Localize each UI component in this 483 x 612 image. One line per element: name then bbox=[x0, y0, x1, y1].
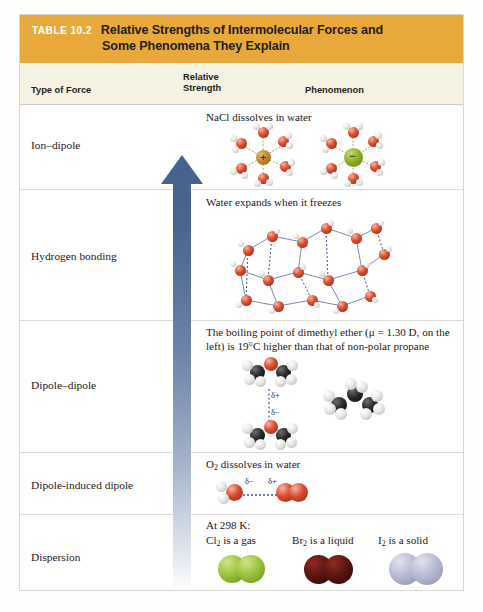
water-hydrogen bbox=[320, 135, 327, 142]
phenomenon-line-1: The boiling point of dimethyl ether (μ =… bbox=[206, 326, 433, 338]
phenomenon-formula-o: O bbox=[206, 458, 214, 470]
water-hydrogen bbox=[344, 180, 351, 187]
ether-hydrogen bbox=[242, 360, 253, 371]
banner-title-line-1: TABLE 10.2Relative Strengths of Intermol… bbox=[32, 23, 451, 39]
lattice-water-hydrogen bbox=[274, 228, 280, 234]
phenomenon-formula-rest: dissolves in water bbox=[218, 458, 300, 470]
lattice-water-hydrogen bbox=[314, 302, 320, 308]
table-number-badge: TABLE 10.2 bbox=[32, 25, 92, 36]
water-hydrogen bbox=[286, 169, 293, 176]
lattice-water-oxygen bbox=[323, 275, 334, 286]
lattice-water-hydrogen bbox=[238, 241, 244, 247]
art-iodine-molecule bbox=[389, 553, 447, 587]
lattice-water-hydrogen bbox=[259, 271, 265, 277]
lattice-water-oxygen bbox=[243, 245, 254, 256]
art-chlorine-molecule bbox=[218, 555, 272, 587]
propane-hydrogen bbox=[323, 390, 335, 402]
water-hydrogen bbox=[356, 123, 363, 130]
lattice-water-hydrogen bbox=[236, 302, 242, 308]
ether-hydrogen bbox=[286, 374, 297, 385]
lattice-water-hydrogen bbox=[386, 246, 392, 252]
water-hydrogen bbox=[376, 169, 383, 176]
water-hydrogen bbox=[331, 172, 338, 179]
lattice-water-hydrogen bbox=[364, 262, 370, 268]
column-header-phenomenon: Phenomenon bbox=[305, 85, 364, 96]
water-hydrogen bbox=[266, 179, 273, 186]
propane-hydrogen bbox=[360, 408, 372, 420]
art-dimethyl-ether-bottom bbox=[242, 420, 298, 454]
lattice-water-hydrogen bbox=[269, 308, 275, 314]
ether-hydrogen bbox=[287, 360, 298, 371]
chlorine-atom bbox=[237, 555, 265, 583]
column-header-relative-strength: Relative Strength bbox=[148, 72, 218, 83]
art-ice-lattice bbox=[216, 214, 406, 319]
force-label-dipole-dipole: Dipole–dipole bbox=[31, 379, 96, 391]
force-label-dispersion: Dispersion bbox=[31, 551, 80, 563]
phenomenon-text-dipole-induced-dipole: O2 dissolves in water bbox=[206, 458, 300, 475]
dioxygen-oxygen bbox=[289, 483, 308, 502]
lattice-water-hydrogen bbox=[378, 220, 384, 226]
lattice-water-oxygen bbox=[263, 275, 274, 286]
water-hydrogen bbox=[375, 132, 382, 139]
delta-plus-label: δ+ bbox=[268, 476, 277, 486]
ether-hydrogen bbox=[255, 439, 266, 450]
induced-dipole-line bbox=[243, 492, 279, 498]
formula-element: Br bbox=[292, 534, 303, 546]
lattice-water-oxygen bbox=[351, 233, 362, 244]
lattice-water-hydrogen bbox=[300, 264, 306, 270]
table-row-dipole-dipole: Dipole–dipole The boiling point of dimet… bbox=[20, 321, 463, 453]
propane-hydrogen bbox=[371, 390, 383, 402]
delta-minus-label: δ− bbox=[245, 476, 254, 486]
delta-minus-label: δ− bbox=[271, 407, 280, 417]
ether-hydrogen bbox=[244, 437, 255, 448]
water-hydrogen bbox=[286, 142, 293, 149]
lattice-water-hydrogen bbox=[319, 271, 325, 277]
table-10-2: TABLE 10.2Relative Strengths of Intermol… bbox=[19, 14, 464, 591]
lattice-water-hydrogen bbox=[230, 261, 236, 267]
water-hydrogen bbox=[241, 172, 248, 179]
art-hydrated-sodium-ion: + bbox=[227, 127, 299, 187]
ether-hydrogen bbox=[255, 376, 266, 387]
propane-hydrogen bbox=[373, 403, 385, 415]
dispersion-item-label-bromine: Br2 is a liquid bbox=[292, 534, 354, 551]
water-hydrogen bbox=[266, 123, 273, 130]
water-hydrogen bbox=[320, 168, 327, 175]
table-title-line-1: Relative Strengths of Intermolecular For… bbox=[101, 23, 383, 37]
column-header-strength: Strength bbox=[183, 83, 221, 94]
phenomenon-text-ion-dipole: NaCl dissolves in water bbox=[206, 111, 312, 125]
water-hydrogen bbox=[230, 168, 237, 175]
lattice-water-oxygen bbox=[235, 265, 246, 276]
chloride-ion-charge-label: − bbox=[349, 150, 356, 162]
art-bromine-molecule bbox=[304, 555, 358, 587]
propane-hydrogen bbox=[335, 408, 347, 420]
ether-hydrogen bbox=[244, 374, 255, 385]
table-row-dipole-induced-dipole: Dipole-induced dipole O2 dissolves in wa… bbox=[20, 453, 463, 515]
table-row-dispersion: Dispersion At 298 K: Cl2 is a gas Br2 is… bbox=[20, 515, 463, 591]
lattice-water-hydrogen bbox=[328, 220, 334, 226]
water-hydrogen bbox=[378, 159, 385, 166]
phenomenon-text-hydrogen-bonding: Water expands when it freezes bbox=[206, 196, 341, 210]
water-hydrogen bbox=[376, 142, 383, 149]
propane-hydrogen bbox=[356, 381, 368, 393]
water-hydrogen bbox=[254, 180, 261, 187]
water-hydrogen bbox=[232, 146, 239, 153]
ether-hydrogen bbox=[242, 423, 253, 434]
ether-hydrogen bbox=[275, 439, 286, 450]
art-propane-molecule bbox=[323, 381, 385, 421]
water-hydrogen bbox=[216, 481, 227, 492]
art-hydrated-chloride-ion: − bbox=[317, 127, 389, 187]
dispersion-item-label-chlorine: Cl2 is a gas bbox=[206, 534, 256, 551]
force-label-dipole-induced-dipole: Dipole-induced dipole bbox=[31, 479, 133, 491]
force-label-hydrogen-bonding: Hydrogen bonding bbox=[31, 250, 117, 262]
formula-element: Cl bbox=[206, 534, 216, 546]
bromine-atom bbox=[324, 555, 353, 584]
phenomenon-text-dipole-dipole: The boiling point of dimethyl ether (μ =… bbox=[206, 326, 464, 353]
delta-plus-label: δ+ bbox=[271, 390, 280, 400]
column-header-relative: Relative bbox=[183, 72, 219, 83]
water-hydrogen bbox=[253, 123, 260, 130]
formula-state: is a liquid bbox=[307, 534, 354, 546]
water-hydrogen bbox=[218, 493, 229, 504]
ether-hydrogen bbox=[275, 376, 286, 387]
lattice-water-hydrogen bbox=[293, 233, 299, 239]
table-banner: TABLE 10.2Relative Strengths of Intermol… bbox=[20, 15, 463, 63]
